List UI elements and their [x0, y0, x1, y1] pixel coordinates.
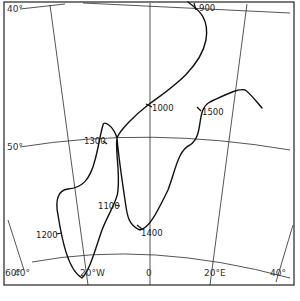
longitude-label-20w: 20°W — [80, 268, 105, 278]
track-label-1300: 1300 — [84, 136, 106, 146]
longitude-line-20e — [210, 4, 247, 285]
track-label-900: 900 — [199, 3, 215, 13]
longitude-line-40w — [8, 220, 24, 270]
track-label-1400: 1400 — [141, 228, 163, 238]
longitude-label-40e: 40° — [270, 268, 286, 278]
map: 900 1000 1100 1200 1300 1400 1500 40° 50… — [0, 0, 300, 301]
track-label-1000: 1000 — [152, 103, 174, 113]
track-tick-1500 — [197, 107, 201, 111]
latitude-label-50: 50° — [7, 142, 23, 152]
longitude-label-0: 0 — [146, 268, 152, 278]
latitude-line-40 — [20, 4, 65, 9]
longitude-label-20e: 20°E — [204, 268, 226, 278]
longitude-line-20w — [50, 5, 88, 285]
latitude-line-60 — [32, 254, 290, 278]
track-label-1100: 1100 — [98, 201, 120, 211]
map-frame — [4, 2, 294, 285]
latitude-line-50 — [20, 137, 290, 150]
track-label-1200: 1200 — [36, 230, 58, 240]
latitude-line-40-east — [83, 3, 290, 13]
latitude-label-40: 40° — [7, 4, 23, 14]
longitude-label-40w: 40° — [14, 268, 30, 278]
track-label-1500: 1500 — [202, 107, 224, 117]
